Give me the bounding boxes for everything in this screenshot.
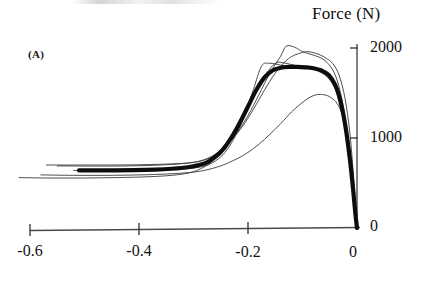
trace-trial-4 [74, 63, 357, 228]
x-tick-label-minus-0-2: -0.2 [218, 243, 278, 261]
y-tick-label-2000: 2000 [370, 38, 402, 56]
x-tick-label-minus-0-4: -0.4 [109, 242, 169, 260]
y-tick-label-0: 0 [370, 217, 378, 235]
data-traces-group [19, 46, 357, 228]
plot-canvas [0, 0, 424, 281]
force-displacement-figure: Force (N) (A) 2000 1000 0 -0.6 -0.4 -0.2… [0, 0, 424, 281]
y-tick-label-1000: 1000 [370, 128, 402, 146]
x-axis-line [30, 228, 360, 231]
trace-trial-3 [19, 62, 357, 228]
trace-mean-thick [79, 67, 357, 228]
trace-trial-1 [46, 46, 357, 228]
x-tick-label-0: 0 [330, 243, 376, 261]
axes-group [30, 44, 360, 236]
x-tick-label-minus-0-6: -0.6 [0, 242, 60, 260]
trace-trial-2 [57, 52, 357, 228]
